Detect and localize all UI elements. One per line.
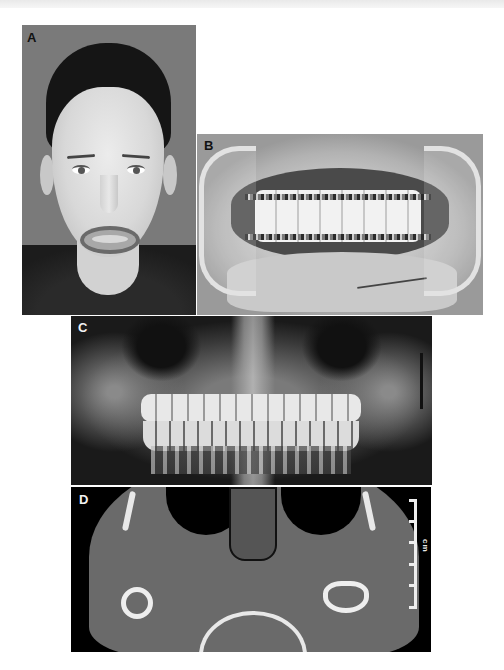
left-eye xyxy=(72,165,90,174)
scale-tick xyxy=(409,563,417,566)
panel-label-d: D xyxy=(79,493,88,506)
scale-tick xyxy=(409,499,417,502)
upper-teeth xyxy=(141,394,361,422)
page-top-edge xyxy=(0,0,504,8)
lower-arch-bar xyxy=(245,234,431,240)
scale-marker xyxy=(420,353,423,409)
left-condyle xyxy=(121,587,153,619)
nose xyxy=(100,175,118,213)
panel-c-panoramic-xray: C xyxy=(71,316,432,485)
scale-tick xyxy=(409,584,417,587)
nasal-cavity xyxy=(229,487,277,561)
scale-tick xyxy=(409,541,417,544)
scale-tick xyxy=(409,606,417,609)
panel-b-intraoral-photo: B xyxy=(197,134,483,315)
scale-bar xyxy=(414,499,417,609)
injured-lips xyxy=(84,230,136,250)
left-cheek-retractor xyxy=(199,146,256,296)
upper-arch-bar xyxy=(245,194,431,200)
tooth-roots xyxy=(151,446,351,474)
right-condyle xyxy=(323,581,369,613)
lower-lip xyxy=(227,252,457,312)
right-ear xyxy=(163,155,177,195)
scale-tick xyxy=(409,520,417,523)
panel-label-b: B xyxy=(204,139,213,152)
right-cheek-retractor xyxy=(424,146,481,296)
scale-unit: cm xyxy=(421,539,430,553)
panel-a-facial-photo: A xyxy=(22,25,196,315)
panel-label-c: C xyxy=(78,321,87,334)
panel-d-ct-scan: cm D xyxy=(71,487,431,652)
panel-label-a: A xyxy=(27,31,36,44)
right-eye xyxy=(127,165,145,174)
